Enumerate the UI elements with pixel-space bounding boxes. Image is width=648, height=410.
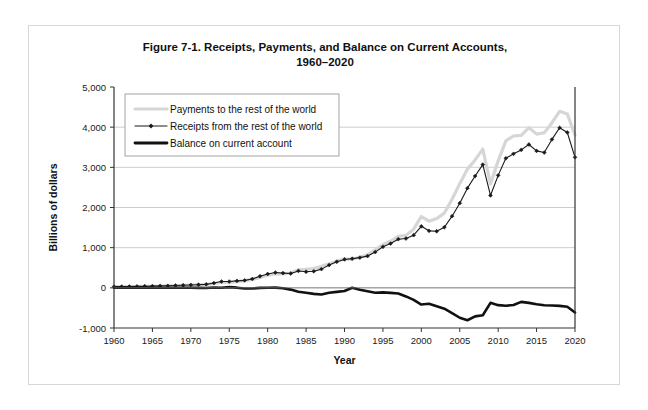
- legend-label-1: Payments to the rest of the world: [170, 104, 316, 115]
- x-tick-label: 1975: [219, 335, 240, 346]
- y-tick-label: 2,000: [82, 202, 106, 213]
- figure-frame: Figure 7-1. Receipts, Payments, and Bala…: [28, 25, 620, 385]
- x-tick-label: 1990: [334, 335, 355, 346]
- y-tick-label: 0: [101, 282, 106, 293]
- x-tick-label: 2010: [488, 335, 509, 346]
- line-chart: 5,0004,0003,0002,0001,0000-1,000 1960196…: [29, 26, 621, 386]
- y-tick-label: 1,000: [82, 242, 106, 253]
- x-tick-label: 1985: [296, 335, 317, 346]
- y-tick-label: 3,000: [82, 162, 106, 173]
- x-axis-tick-labels: 1960196519701975198019851990199520002005…: [103, 335, 585, 346]
- chart-canvas: 5,0004,0003,0002,0001,0000-1,000 1960196…: [29, 26, 621, 386]
- x-tick-label: 1965: [142, 335, 163, 346]
- chart-legend: Payments to the rest of the worldReceipt…: [125, 94, 339, 156]
- x-tick-label: 1980: [257, 335, 278, 346]
- y-tick-label: 4,000: [82, 122, 106, 133]
- x-tick-label: 2020: [564, 335, 585, 346]
- series-marker: [435, 229, 439, 233]
- y-tick-label: 5,000: [82, 82, 106, 93]
- legend-label-3: Balance on current account: [170, 138, 292, 149]
- series-marker: [496, 173, 500, 177]
- y-tick-label: -1,000: [79, 323, 106, 334]
- x-axis-title: Year: [333, 354, 355, 366]
- legend-label-2: Receipts from the rest of the world: [170, 121, 322, 132]
- x-tick-label: 2015: [526, 335, 547, 346]
- x-tick-label: 1995: [372, 335, 393, 346]
- x-tick-label: 1970: [180, 335, 201, 346]
- x-tick-label: 1960: [103, 335, 124, 346]
- y-axis-title: Billions of dollars: [47, 163, 59, 251]
- series-marker: [404, 237, 408, 241]
- y-axis-tick-labels: 5,0004,0003,0002,0001,0000-1,000: [79, 82, 106, 334]
- x-tick-label: 2000: [411, 335, 432, 346]
- x-tick-label: 2005: [449, 335, 470, 346]
- series-marker: [489, 194, 493, 198]
- series-line-3: [114, 287, 575, 320]
